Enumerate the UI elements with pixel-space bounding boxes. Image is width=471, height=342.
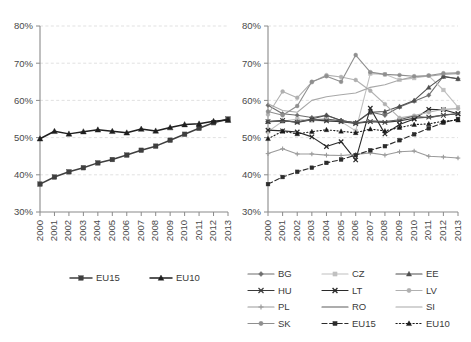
x-axis-tick-label: 2012	[437, 220, 448, 241]
x-axis-tick-label: 2006	[349, 220, 360, 241]
left-chart-svg: 30%40%50%60%70%80%2000200120022003200420…	[0, 0, 236, 270]
y-axis-tick-label: 50%	[242, 132, 262, 143]
y-axis-tick-label: 70%	[14, 58, 34, 69]
x-axis-tick-label: 2013	[452, 220, 463, 241]
x-axis-tick-label: 2005	[106, 220, 117, 241]
x-axis-tick-label: 2003	[305, 220, 316, 241]
y-axis-tick-label: 70%	[242, 58, 262, 69]
legend-item-eu10[interactable]: EU10	[396, 318, 450, 329]
x-axis-tick-label: 2005	[335, 220, 346, 241]
series-lv	[266, 73, 460, 120]
series-eu15	[38, 117, 231, 187]
x-axis-tick-label: 2012	[207, 220, 218, 241]
legend-item-eu15[interactable]: EU15	[322, 318, 376, 329]
y-axis-tick-label: 80%	[14, 20, 34, 31]
x-axis-tick-label: 2001	[276, 220, 287, 241]
x-axis-tick-label: 2002	[291, 220, 302, 241]
x-axis-tick-label: 2008	[378, 220, 389, 241]
x-axis-tick-label: 2009	[164, 220, 175, 241]
legend-item-eu15[interactable]: EU15	[70, 272, 120, 283]
legend-label: LV	[426, 285, 438, 296]
left-legend: EU15EU10	[0, 268, 236, 308]
legend-item-cz[interactable]: CZ	[322, 268, 365, 279]
x-axis-tick-label: 2004	[91, 220, 102, 241]
x-axis-tick-label: 2010	[178, 220, 189, 241]
x-axis-tick-label: 2004	[320, 220, 331, 241]
legend-label: SK	[278, 318, 291, 329]
x-axis-tick-label: 2008	[149, 220, 160, 241]
legend-label: PL	[278, 301, 290, 312]
legend-label: RO	[352, 301, 366, 312]
x-axis-tick-label: 2011	[193, 220, 204, 240]
legend-item-lv[interactable]: LV	[396, 285, 438, 296]
x-axis-tick-label: 2007	[135, 220, 146, 241]
legend-item-ee[interactable]: EE	[396, 268, 439, 279]
x-axis-tick-label: 2002	[62, 220, 73, 241]
legend-label: HU	[278, 285, 292, 296]
figure-root: 30%40%50%60%70%80%2000200120022003200420…	[0, 0, 471, 342]
y-axis-tick-label: 60%	[14, 95, 34, 106]
legend-item-lt[interactable]: LT	[322, 285, 363, 296]
y-axis-tick-label: 30%	[14, 206, 34, 217]
x-axis-tick-label: 2000	[262, 220, 273, 241]
left-plot-area: 30%40%50%60%70%80%2000200120022003200420…	[0, 0, 236, 270]
legend-item-eu10[interactable]: EU10	[150, 272, 200, 283]
right-chart-svg: 30%40%50%60%70%80%2000200120022003200420…	[236, 0, 471, 270]
x-axis-tick-label: 2006	[120, 220, 131, 241]
legend-label: EE	[426, 268, 439, 279]
legend-label: LT	[352, 285, 363, 296]
x-axis-tick-label: 2007	[364, 220, 375, 241]
legend-label: CZ	[352, 268, 365, 279]
legend-label: EU10	[426, 318, 450, 329]
legend-item-sk[interactable]: SK	[248, 318, 291, 329]
legend-label: SI	[426, 301, 435, 312]
x-axis-tick-label: 2009	[393, 220, 404, 241]
left-legend-svg: EU15EU10	[0, 268, 236, 308]
x-axis-tick-label: 2011	[422, 220, 433, 240]
x-axis-tick-label: 2003	[77, 220, 88, 241]
right-plot-area: 30%40%50%60%70%80%2000200120022003200420…	[236, 0, 471, 270]
y-axis-tick-label: 40%	[14, 169, 34, 180]
y-axis-tick-label: 60%	[242, 95, 262, 106]
chart-panel-left: 30%40%50%60%70%80%2000200120022003200420…	[0, 0, 236, 342]
x-axis-tick-label: 2013	[222, 220, 233, 241]
legend-item-pl[interactable]: PL	[248, 301, 290, 312]
x-axis-tick-label: 2001	[48, 220, 59, 241]
series-eu15	[266, 117, 460, 186]
legend-item-hu[interactable]: HU	[248, 285, 292, 296]
right-legend: BGCZEEHULTLVPLROSISKEU15EU10	[236, 262, 471, 342]
legend-label: BG	[278, 268, 292, 279]
y-axis-tick-label: 40%	[242, 169, 262, 180]
x-axis-tick-label: 2010	[408, 220, 419, 241]
y-axis-tick-label: 30%	[242, 206, 262, 217]
legend-item-bg[interactable]: BG	[248, 268, 292, 279]
chart-panel-right: 30%40%50%60%70%80%2000200120022003200420…	[236, 0, 471, 342]
series-pl	[266, 146, 461, 160]
legend-label: EU15	[352, 318, 376, 329]
legend-item-si[interactable]: SI	[396, 301, 435, 312]
legend-label: EU15	[96, 272, 120, 283]
legend-item-ro[interactable]: RO	[322, 301, 366, 312]
y-axis-tick-label: 80%	[242, 20, 262, 31]
right-legend-svg: BGCZEEHULTLVPLROSISKEU15EU10	[236, 262, 471, 342]
y-axis-tick-label: 50%	[14, 132, 34, 143]
x-axis-tick-label: 2000	[34, 220, 45, 241]
legend-label: EU10	[176, 272, 200, 283]
